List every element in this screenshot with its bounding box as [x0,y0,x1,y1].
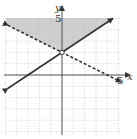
open-circle-point [60,50,64,54]
y-tick-label-5: 5 [55,14,61,24]
shaded-solution-region [6,18,120,52]
intersection-point [60,50,64,54]
inequality-graph [0,0,137,139]
y-axis-label: y [55,3,61,13]
x-axis-label: x [127,72,133,82]
x-tick-label-5: 5 [117,76,123,86]
